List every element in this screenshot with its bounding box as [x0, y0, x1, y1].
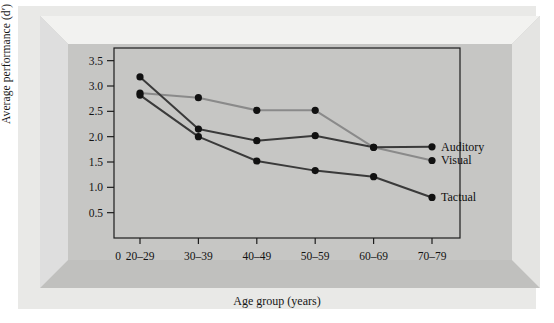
data-point [253, 157, 260, 164]
figure-panel: Average performance (d′) 0.51.01.52.02.5… [18, 6, 536, 309]
y-axis-tick-label: 0.5 [89, 207, 104, 219]
series-visual [136, 89, 435, 164]
plot-frame [114, 48, 460, 238]
series-line [140, 77, 432, 147]
y-axis-tick-label: 2.5 [89, 105, 104, 117]
data-point [370, 144, 377, 151]
series-auditory [136, 73, 435, 151]
figure-container: Average performance (d′) 0.51.01.52.02.5… [0, 0, 554, 323]
data-point [253, 107, 260, 114]
bevel-left-edge [40, 16, 68, 288]
data-point [428, 194, 435, 201]
y-axis-tick-label: 3.0 [89, 80, 104, 92]
data-point [136, 73, 143, 80]
x-axis-tick-label: 40–49 [242, 250, 271, 262]
x-axis-tick-label: 20–29 [126, 250, 155, 262]
data-point [370, 173, 377, 180]
series-label-visual: Visual [441, 153, 472, 167]
series-label-tactual: Tactual [441, 190, 477, 204]
line-chart: 0.51.01.52.02.53.03.5020–2930–3940–4950–… [68, 44, 512, 284]
x-axis-tick-label: 50–59 [301, 250, 330, 262]
chart-plot-area: 0.51.01.52.02.53.03.5020–2930–3940–4950–… [68, 44, 512, 260]
data-point [312, 167, 319, 174]
series-label-auditory: Auditory [441, 140, 484, 154]
x-axis-title: Age group (years) [18, 294, 536, 309]
x-axis-tick-label: 70–79 [418, 250, 447, 262]
data-point [428, 157, 435, 164]
data-point [312, 132, 319, 139]
data-point [195, 94, 202, 101]
x-axis-tick-label: 60–69 [359, 250, 388, 262]
y-axis-tick-label: 3.5 [89, 55, 104, 67]
data-point [136, 92, 143, 99]
data-point [253, 137, 260, 144]
y-axis-tick-label: 1.5 [89, 156, 104, 168]
data-point [195, 125, 202, 132]
y-axis-tick-label: 1.0 [89, 181, 104, 193]
x-axis-origin-label: 0 [115, 250, 121, 262]
bevel-right-edge [512, 16, 540, 288]
y-axis-title: Average performance (d′) [0, 0, 12, 124]
data-point [195, 133, 202, 140]
data-point [428, 143, 435, 150]
bevel-top-edge [40, 16, 540, 44]
data-point [312, 107, 319, 114]
x-axis-tick-label: 30–39 [184, 250, 213, 262]
y-axis-tick-label: 2.0 [89, 131, 104, 143]
